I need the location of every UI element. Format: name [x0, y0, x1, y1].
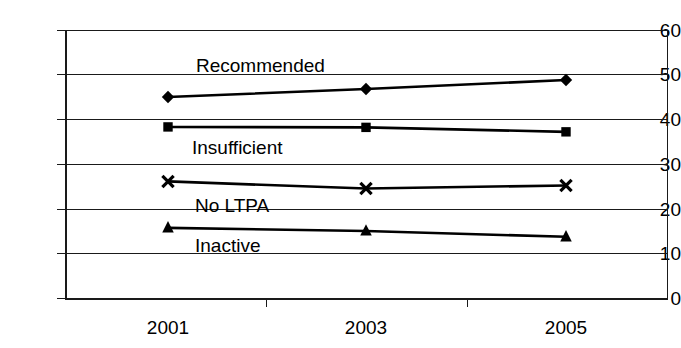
- series-label-insufficient: Insufficient: [192, 138, 282, 157]
- gridline-60: [65, 30, 668, 31]
- x-tick-label-2005: 2005: [545, 318, 587, 337]
- x-tick-mark-2: [467, 298, 468, 307]
- y-axis-line: [65, 30, 67, 298]
- gridline-20: [65, 209, 668, 210]
- gridline-10: [65, 253, 668, 254]
- gridline-50: [65, 74, 668, 75]
- x-tick-label-2003: 2003: [345, 318, 387, 337]
- x-axis-line: [65, 298, 668, 300]
- gridline-40: [65, 119, 668, 120]
- series-plot-area: [0, 0, 681, 348]
- series-label-no-ltpa: No LTPA: [195, 196, 269, 215]
- series-label-inactive: Inactive: [195, 236, 260, 255]
- line-chart: 60 50 40 30 20 10 0 2001 2003 2005 Recom…: [0, 0, 681, 348]
- gridline-30: [65, 164, 668, 165]
- plot-right-border: [667, 30, 668, 298]
- x-tick-label-2001: 2001: [147, 318, 189, 337]
- series-label-recommended: Recommended: [196, 56, 325, 75]
- x-tick-mark-1: [266, 298, 267, 307]
